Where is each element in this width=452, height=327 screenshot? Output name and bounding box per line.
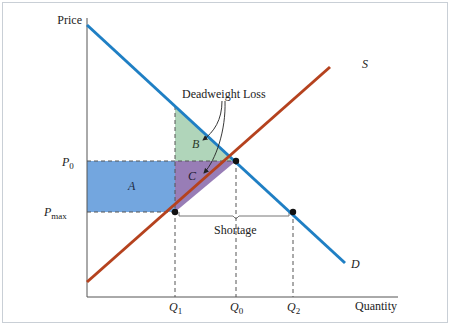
demand-pmax-point: [290, 209, 296, 215]
y-axis-label: Price: [57, 13, 82, 27]
q0-label: Q0: [230, 300, 244, 316]
x-axis-label: Quantity: [355, 299, 397, 313]
region-c-label: C: [188, 169, 197, 183]
pmax-label: Pmax: [43, 205, 67, 221]
equilibrium-point: [233, 158, 239, 164]
shortage-label: Shortage: [214, 223, 257, 237]
region-c: [175, 161, 236, 212]
supply-demand-chart: Price Quantity S D Deadweight Loss A B C…: [0, 0, 452, 327]
shortage-bracket: [179, 212, 289, 219]
q2-label: Q2: [287, 300, 300, 316]
p0-label: P0: [61, 155, 74, 171]
region-b-label: B: [192, 137, 200, 151]
supply-label: S: [362, 57, 368, 71]
supply-pmax-point: [172, 209, 178, 215]
q1-label: Q1: [169, 300, 182, 316]
deadweight-loss-label: Deadweight Loss: [182, 87, 266, 101]
demand-label: D: [350, 257, 360, 271]
region-a-label: A: [127, 179, 136, 193]
